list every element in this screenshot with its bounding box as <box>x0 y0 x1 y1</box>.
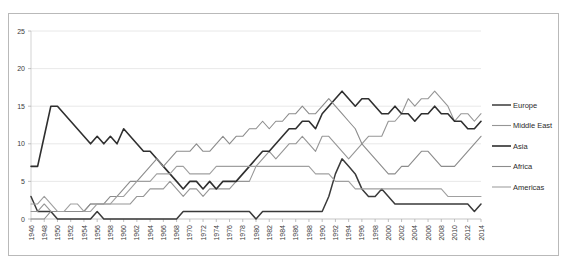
x-tick-label: 1954 <box>81 225 88 241</box>
x-tick-label: 2012 <box>464 225 471 241</box>
x-tick-label: 1980 <box>253 225 260 241</box>
x-tick-label: 1976 <box>226 225 233 241</box>
x-tick-label: 1972 <box>200 225 207 241</box>
x-tick-label: 2008 <box>438 225 445 241</box>
legend-label-middle-east: Middle East <box>513 121 553 130</box>
x-tick-label: 1982 <box>266 225 273 241</box>
y-axis-ticks: 0510152025 <box>17 28 31 223</box>
x-tick-label: 1958 <box>107 225 114 241</box>
x-tick-label: 2000 <box>385 225 392 241</box>
y-tick-label: 10 <box>17 140 25 147</box>
chart-figure: 0510152025 19461948195019521954195619581… <box>0 0 569 269</box>
x-tick-label: 1970 <box>186 225 193 241</box>
x-tick-label: 2002 <box>398 225 405 241</box>
y-tick-label: 20 <box>17 65 25 72</box>
x-tick-label: 1966 <box>160 225 167 241</box>
x-tick-label: 1988 <box>306 225 313 241</box>
line-chart: 0510152025 19461948195019521954195619581… <box>0 0 569 269</box>
x-tick-label: 1964 <box>147 225 154 241</box>
x-tick-label: 1946 <box>28 225 35 241</box>
x-tick-label: 2010 <box>451 225 458 241</box>
series-lines-group <box>31 91 481 219</box>
chart-legend: EuropeMiddle EastAsiaAfricaAmericas <box>492 101 553 192</box>
series-line-americas <box>31 166 481 211</box>
legend-label-americas: Americas <box>513 183 545 192</box>
x-tick-label: 1960 <box>120 225 127 241</box>
x-tick-label: 1962 <box>133 225 140 241</box>
x-tick-label: 1950 <box>54 225 61 241</box>
y-tick-label: 15 <box>17 103 25 110</box>
x-tick-label: 1974 <box>213 225 220 241</box>
x-tick-label: 1994 <box>345 225 352 241</box>
x-tick-label: 1984 <box>279 225 286 241</box>
x-tick-label: 2014 <box>478 225 485 241</box>
series-line-middle-east <box>31 91 481 211</box>
gridlines-group <box>31 31 481 219</box>
legend-label-europe: Europe <box>513 101 537 110</box>
x-tick-label: 1996 <box>358 225 365 241</box>
y-tick-label: 0 <box>21 216 25 223</box>
x-tick-label: 2006 <box>425 225 432 241</box>
x-tick-label: 1992 <box>332 225 339 241</box>
x-tick-label: 1948 <box>41 225 48 241</box>
y-tick-label: 5 <box>21 178 25 185</box>
x-tick-label: 1998 <box>372 225 379 241</box>
legend-label-africa: Africa <box>513 162 533 171</box>
x-tick-label: 1990 <box>319 225 326 241</box>
y-tick-label: 25 <box>17 28 25 35</box>
x-tick-label: 2004 <box>411 225 418 241</box>
x-tick-label: 1956 <box>94 225 101 241</box>
x-tick-label: 1952 <box>67 225 74 241</box>
x-tick-label: 1986 <box>292 225 299 241</box>
x-tick-label: 1968 <box>173 225 180 241</box>
legend-label-asia: Asia <box>513 142 528 151</box>
x-axis-ticks: 1946194819501952195419561958196019621964… <box>28 219 485 241</box>
x-tick-label: 1978 <box>239 225 246 241</box>
